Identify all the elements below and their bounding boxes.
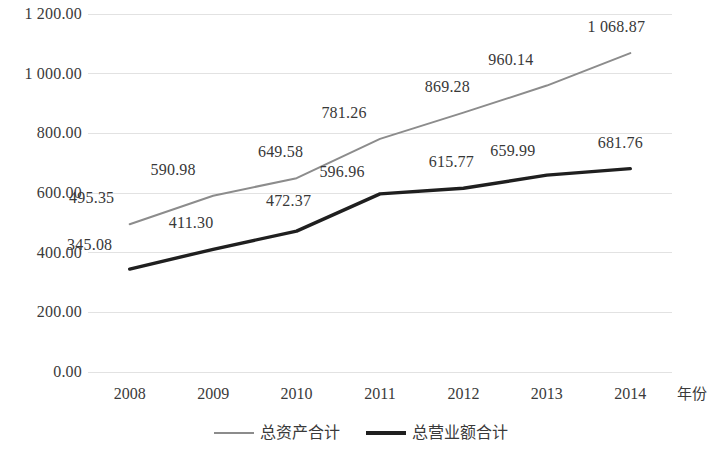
data-label: 869.28 [425, 79, 470, 95]
legend-item-total-revenue[interactable]: 总营业额合计 [366, 424, 508, 442]
chart-legend: 总资产合计 总营业额合计 [0, 424, 722, 442]
y-axis-tick-labels: 0.00200.00400.00600.00800.001 000.001 20… [0, 0, 82, 449]
y-axis-tick-label: 200.00 [0, 304, 82, 320]
data-label: 960.14 [488, 52, 533, 68]
x-axis-tick-label: 2009 [197, 386, 229, 402]
line-chart: 0.00200.00400.00600.00800.001 000.001 20… [0, 0, 722, 449]
y-axis-tick-label: 0.00 [0, 364, 82, 380]
legend-label-total-assets: 总资产合计 [260, 424, 340, 442]
data-label: 781.26 [321, 105, 366, 121]
data-label: 681.76 [598, 135, 643, 151]
x-axis-tick-label: 2013 [531, 386, 563, 402]
y-axis-tick-label: 1 200.00 [0, 6, 82, 22]
data-label: 590.98 [151, 162, 196, 178]
data-label: 649.58 [258, 144, 303, 160]
data-label: 1 068.87 [587, 19, 645, 35]
data-label: 472.37 [266, 193, 311, 209]
data-label: 345.08 [67, 237, 112, 253]
x-axis-tick-label: 2008 [114, 386, 146, 402]
legend-label-total-revenue: 总营业额合计 [412, 424, 508, 442]
legend-line-swatch-icon [366, 431, 406, 435]
x-axis-title: 年份 [677, 386, 707, 402]
data-label: 659.99 [490, 143, 535, 159]
series-line-total-assets [130, 53, 631, 224]
data-label: 596.96 [319, 164, 364, 180]
data-label: 615.77 [429, 154, 474, 170]
x-axis-tick-label: 2010 [281, 386, 313, 402]
x-axis-tick-label: 2011 [364, 386, 395, 402]
x-axis-tick-label: 2012 [447, 386, 479, 402]
chart-plot-area [0, 0, 722, 449]
data-label: 495.35 [69, 190, 114, 206]
legend-item-total-assets[interactable]: 总资产合计 [214, 424, 340, 442]
x-axis-tick-label: 2014 [614, 386, 646, 402]
data-label: 411.30 [169, 215, 214, 231]
y-axis-tick-label: 1 000.00 [0, 66, 82, 82]
y-axis-tick-label: 800.00 [0, 125, 82, 141]
legend-line-swatch-icon [214, 432, 254, 434]
series-lines [130, 53, 631, 269]
